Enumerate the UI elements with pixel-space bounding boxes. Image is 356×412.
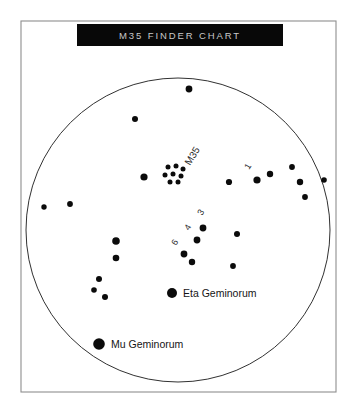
m35-member-dot (166, 165, 171, 170)
m35-member-dot (174, 164, 179, 169)
m35-member-dot (171, 172, 176, 177)
legend-star-dot (167, 288, 177, 298)
star-dot (102, 294, 108, 300)
star-dot (41, 204, 46, 209)
star-dot (289, 164, 295, 170)
star-dot (113, 255, 120, 262)
star-dot (112, 237, 120, 245)
legend-star-name: Eta Geminorum (183, 287, 257, 299)
labeled-star-dot (194, 237, 201, 244)
star-dot (234, 231, 240, 237)
star-dot (267, 171, 273, 177)
star-dot (189, 259, 195, 265)
star-dot (132, 116, 138, 122)
m35-member-dot (179, 174, 184, 179)
sky-field-circle (26, 78, 330, 382)
m35-member-dot (176, 180, 181, 185)
star-dot (321, 177, 327, 183)
star-dot (91, 287, 97, 293)
m35-member-dot (168, 180, 173, 185)
star-dot (67, 201, 73, 207)
star-dot (297, 179, 303, 185)
chart-title: M35 FINDER CHART (119, 30, 241, 41)
star-dot (302, 194, 308, 200)
star-dot (226, 179, 232, 185)
labeled-star-dot (253, 176, 260, 183)
finder-chart-canvas: 1346 M35 Eta GeminorumMu Geminorum M35 F… (0, 0, 356, 412)
labeled-star-dot (181, 251, 188, 258)
m35-member-dot (181, 167, 186, 172)
legend-star-dot (93, 338, 105, 350)
finder-chart-root: 1346 M35 Eta GeminorumMu Geminorum M35 F… (0, 0, 356, 412)
legend-star-name: Mu Geminorum (111, 338, 184, 350)
m35-member-dot (163, 173, 168, 178)
star-dot (140, 173, 147, 180)
star-dot (186, 86, 193, 93)
star-dot (96, 276, 102, 282)
labeled-star-dot (200, 225, 207, 232)
star-dot (230, 263, 236, 269)
